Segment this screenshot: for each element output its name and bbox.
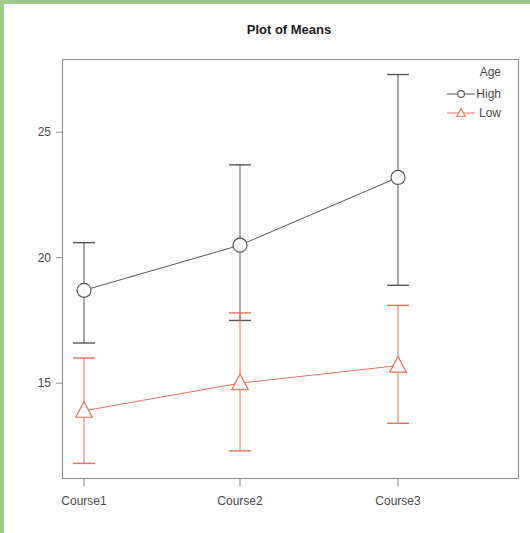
chart-title: Plot of Means (247, 22, 332, 37)
figure-canvas: Plot of Means 152025 Course1Course2Cours… (4, 4, 530, 533)
figure-container: Plot of Means 152025 Course1Course2Cours… (0, 0, 530, 533)
data-point-marker-circle (233, 238, 247, 252)
x-axis-category-label: Course1 (61, 494, 107, 508)
y-axis-tick-label: 20 (38, 251, 52, 265)
legend-item-label: High (476, 87, 501, 101)
plot-of-means-chart: Plot of Means 152025 Course1Course2Cours… (4, 4, 530, 533)
legend-marker-circle (458, 91, 465, 98)
legend-title: Age (480, 65, 502, 79)
x-axis-category-label: Course3 (375, 494, 421, 508)
legend-item-label: Low (479, 106, 501, 120)
y-axis-tick-label: 15 (38, 376, 52, 390)
x-axis-category-label: Course2 (217, 494, 263, 508)
chart-background (4, 4, 530, 533)
y-axis-tick-label: 25 (38, 125, 52, 139)
data-point-marker-circle (77, 283, 91, 297)
data-point-marker-circle (391, 170, 405, 184)
